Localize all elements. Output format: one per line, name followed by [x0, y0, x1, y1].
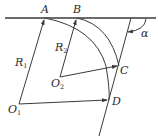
vector-o2-c	[60, 66, 117, 77]
label-d: D	[111, 95, 121, 108]
label-c: C	[120, 64, 129, 77]
label-r1: R1	[14, 56, 27, 70]
label-o2: O2	[51, 77, 64, 91]
label-o2-main: O	[51, 77, 60, 90]
vector-o1-d	[19, 100, 107, 104]
label-r1-main: R	[14, 56, 23, 69]
label-r2-main: R	[54, 41, 63, 54]
label-r2-sub: 2	[63, 47, 67, 55]
label-b: B	[72, 3, 81, 16]
geometry-diagram: A B C D O1 O2 R1 R2 α	[0, 0, 158, 139]
label-o1-main: O	[8, 103, 17, 116]
label-r2: R2	[54, 41, 67, 55]
label-o1: O1	[8, 103, 21, 117]
label-a: A	[40, 3, 49, 16]
slanted-line	[99, 18, 131, 136]
label-r1-sub: 1	[23, 62, 27, 70]
label-o2-sub: 2	[60, 83, 64, 91]
label-alpha: α	[141, 27, 149, 40]
arc-r2	[77, 18, 119, 66]
label-o1-sub: 1	[17, 109, 21, 117]
